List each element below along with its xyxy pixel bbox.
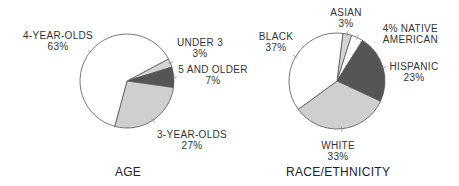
label-black: BLACK 37% — [256, 31, 296, 53]
label-name-line2: AMERICAN — [358, 34, 438, 45]
label-white: WHITE 33% — [316, 140, 360, 162]
label-name: 4% NATIVE — [358, 23, 438, 34]
label-native-american: 4% NATIVE AMERICAN — [358, 23, 438, 45]
label-percent: 3% — [170, 48, 230, 59]
label-percent: 63% — [18, 41, 98, 52]
label-3-year-olds: 3-YEAR-OLDS 27% — [152, 129, 232, 151]
label-name: 5 AND OLDER — [177, 64, 249, 75]
label-name: UNDER 3 — [170, 37, 230, 48]
chart-figure: 4-YEAR-OLDS 63% UNDER 3 3% 5 AND OLDER 7… — [0, 0, 459, 186]
race-ethnicity-chart-title: RACE/ETHNICITY — [286, 166, 390, 179]
label-percent: 23% — [383, 72, 445, 83]
label-name: WHITE — [316, 140, 360, 151]
label-5-and-older: 5 AND OLDER 7% — [177, 64, 249, 86]
label-4-year-olds: 4-YEAR-OLDS 63% — [18, 30, 98, 52]
label-hispanic: HISPANIC 23% — [383, 61, 445, 83]
label-name: 4-YEAR-OLDS — [18, 30, 98, 41]
age-chart-title: AGE — [108, 166, 148, 179]
label-percent: 27% — [152, 140, 232, 151]
label-name: HISPANIC — [383, 61, 445, 72]
label-percent: 33% — [316, 151, 360, 162]
label-name: ASIAN — [326, 7, 366, 18]
race-ethnicity-pie-chart — [289, 31, 386, 132]
label-name: 3-YEAR-OLDS — [152, 129, 232, 140]
label-percent: 7% — [177, 75, 249, 86]
label-under-3: UNDER 3 3% — [170, 37, 230, 59]
label-percent: 37% — [256, 42, 296, 53]
label-name: BLACK — [256, 31, 296, 42]
